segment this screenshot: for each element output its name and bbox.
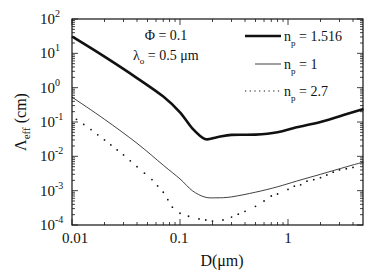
svg-text:0.1: 0.1 [170, 230, 189, 246]
x-tick-labels: 0.01 0.1 1 [62, 230, 292, 246]
series-np-1 [72, 97, 364, 198]
svg-text:102: 102 [40, 8, 60, 27]
svg-text:10-3: 10-3 [40, 180, 63, 199]
svg-text:10-4: 10-4 [40, 214, 63, 233]
legend-item-np-1516: np = 1.516 [245, 29, 342, 48]
series-np-2.7 [76, 118, 354, 222]
y-tick-labels: 102 101 100 10-1 10-2 10-3 10-4 [40, 8, 63, 233]
data-series [72, 37, 364, 222]
legend-item-np-27: np = 2.7 [245, 84, 328, 103]
svg-text:np = 1: np = 1 [284, 57, 317, 76]
svg-text:1: 1 [284, 230, 292, 246]
legend: np = 1.516 np = 1 np = 2.7 [245, 29, 342, 103]
svg-text:10-2: 10-2 [40, 145, 63, 164]
svg-text:0.01: 0.01 [62, 230, 88, 246]
annotation-lambda: λo = 0.5 μm [133, 48, 199, 66]
annotation-phi: Φ = 0.1 [145, 28, 188, 43]
svg-text:np = 1.516: np = 1.516 [284, 29, 342, 48]
svg-text:np = 2.7: np = 2.7 [284, 84, 328, 103]
svg-text:100: 100 [40, 77, 60, 96]
svg-text:10-1: 10-1 [40, 111, 63, 130]
svg-text:101: 101 [40, 42, 60, 61]
svg-text:Λeff (cm): Λeff (cm) [12, 93, 32, 151]
chart: 102 101 100 10-1 10-2 10-3 10-4 0.01 0.1… [0, 0, 370, 271]
y-axis-label: Λeff (cm) [12, 93, 32, 151]
x-axis-label: D(μm) [200, 252, 243, 270]
legend-item-np-1: np = 1 [255, 57, 317, 76]
